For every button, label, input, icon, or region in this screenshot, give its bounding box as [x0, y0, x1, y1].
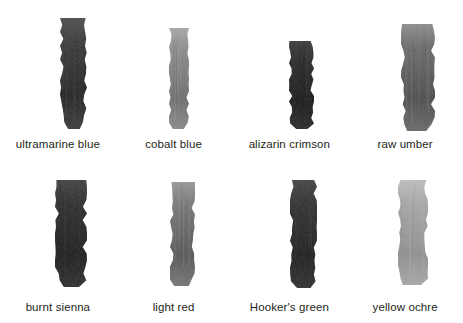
swatch-label: alizarin crimson	[232, 138, 348, 150]
brush-stroke-icon	[60, 18, 87, 129]
swatch-cell-cobalt-blue: cobalt blue	[116, 0, 232, 161]
swatch-cell-raw-umber: raw umber	[347, 0, 463, 161]
swatch-cell-hookers-green: Hooker's green	[232, 162, 348, 323]
swatch-cell-light-red: light red	[116, 162, 232, 323]
stroke-area	[347, 162, 463, 297]
swatch-label: cobalt blue	[116, 138, 232, 150]
brush-stroke-icon	[170, 182, 195, 286]
brush-stroke-icon	[398, 180, 428, 285]
brush-stroke-icon	[169, 28, 189, 129]
swatch-label: burnt sienna	[0, 301, 116, 313]
brush-stroke-icon	[55, 180, 87, 287]
swatch-label: yellow ochre	[347, 301, 463, 313]
stroke-area	[0, 162, 116, 297]
swatch-label: Hooker's green	[232, 301, 348, 313]
swatch-label: ultramarine blue	[0, 138, 116, 150]
swatch-row-1: ultramarine blue cobalt blue alizarin cr…	[0, 0, 463, 161]
swatch-label: light red	[116, 301, 232, 313]
stroke-area	[116, 0, 232, 135]
swatch-cell-yellow-ochre: yellow ochre	[347, 162, 463, 323]
swatch-label: raw umber	[347, 138, 463, 150]
brush-stroke-icon	[290, 180, 317, 288]
brush-stroke-icon	[401, 24, 435, 131]
swatch-cell-alizarin-crimson: alizarin crimson	[232, 0, 348, 161]
stroke-area	[116, 162, 232, 297]
paint-swatch-chart: ultramarine blue cobalt blue alizarin cr…	[0, 0, 463, 323]
stroke-area	[232, 162, 348, 297]
swatch-row-2: burnt sienna light red Hooker's green ye…	[0, 162, 463, 323]
stroke-area	[347, 0, 463, 135]
brush-stroke-icon	[289, 41, 314, 129]
swatch-cell-ultramarine-blue: ultramarine blue	[0, 0, 116, 161]
stroke-area	[232, 0, 348, 135]
swatch-cell-burnt-sienna: burnt sienna	[0, 162, 116, 323]
stroke-area	[0, 0, 116, 135]
